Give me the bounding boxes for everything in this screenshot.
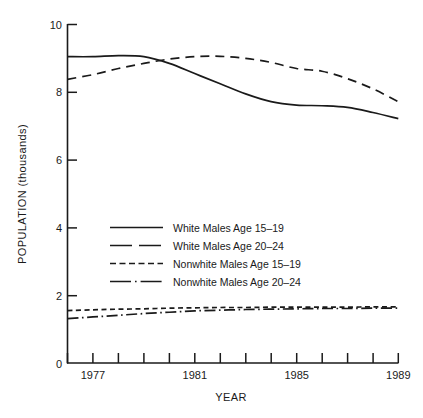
y-tick-label-10: 10 [50, 19, 62, 31]
x-tick-label-1989: 1989 [386, 369, 410, 381]
y-tick-label-8: 8 [56, 86, 62, 98]
y-axis-title: POPULATION (thousands) [16, 124, 28, 264]
legend-label-nonwhite-males-20-24: Nonwhite Males Age 20–24 [173, 276, 301, 288]
x-tick-label-1985: 1985 [284, 369, 308, 381]
legend-label-white-males-20-24: White Males Age 20–24 [173, 240, 284, 252]
y-tick-label-2: 2 [56, 290, 62, 302]
x-tick-label-1981: 1981 [183, 369, 207, 381]
y-tick-label-0: 0 [56, 358, 62, 370]
y-tick-label-6: 6 [56, 154, 62, 166]
chart-background [0, 0, 423, 418]
x-axis-title: YEAR [215, 391, 247, 403]
chart-figure: 10 8 6 4 2 0 1977 1981 [0, 0, 423, 418]
population-line-chart: 10 8 6 4 2 0 1977 1981 [0, 0, 423, 418]
legend-label-nonwhite-males-15-19: Nonwhite Males Age 15–19 [173, 258, 301, 270]
x-tick-label-1977: 1977 [81, 369, 105, 381]
y-tick-label-4: 4 [56, 222, 62, 234]
legend-label-white-males-15-19: White Males Age 15–19 [173, 222, 284, 234]
